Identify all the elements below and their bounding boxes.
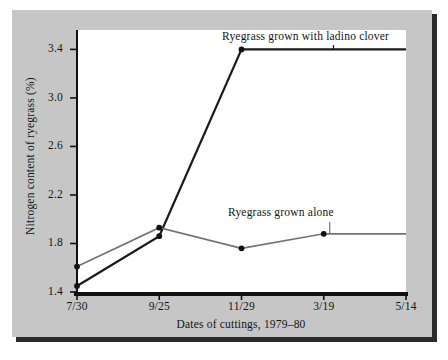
data-point-marker — [239, 245, 245, 251]
y-axis-ticks — [70, 49, 77, 292]
y-tick-label: 3.4 — [29, 42, 63, 54]
series-label-clover: Ryegrass grown with ladino clover — [222, 30, 389, 42]
x-axis-title: Dates of cuttings, 1979–80 — [76, 318, 406, 330]
x-tick-label: 7/30 — [47, 300, 107, 312]
x-tick-label: 5/14 — [376, 300, 436, 312]
series-layer — [74, 47, 406, 289]
x-tick-label: 3/19 — [294, 300, 354, 312]
data-point-marker — [74, 283, 80, 289]
x-tick-label: 9/25 — [129, 300, 189, 312]
data-point-marker — [239, 47, 245, 53]
data-point-marker — [321, 231, 327, 237]
data-point-marker — [156, 233, 162, 239]
x-tick-label: 11/29 — [212, 300, 272, 312]
y-tick-label: 1.4 — [29, 285, 63, 297]
data-point-marker — [156, 225, 162, 231]
chart-figure: 1.41.82.22.63.03.4 7/309/2511/293/195/14… — [0, 0, 448, 360]
y-axis-title: Nitrogen content of ryegrass (%) — [24, 56, 36, 256]
data-point-marker — [74, 264, 80, 270]
series-label-alone: Ryegrass grown alone — [228, 206, 334, 218]
